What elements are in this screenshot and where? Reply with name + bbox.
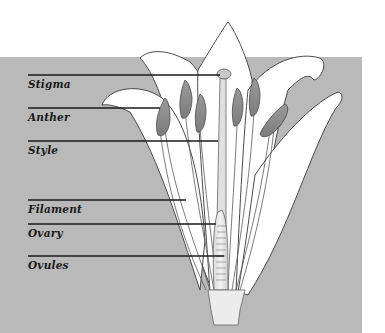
label-ovules: Ovules — [28, 259, 69, 271]
label-filament: Filament — [28, 203, 82, 215]
label-style: Style — [28, 144, 58, 156]
label-ovary: Ovary — [28, 227, 63, 239]
flower-diagram: Stigma Anther Style Filament Ovary Ovule… — [0, 0, 385, 333]
label-stigma: Stigma — [28, 78, 71, 90]
flower-illustration — [0, 0, 385, 333]
receptacle — [208, 290, 245, 325]
label-anther: Anther — [28, 111, 70, 123]
stigma — [217, 69, 231, 79]
